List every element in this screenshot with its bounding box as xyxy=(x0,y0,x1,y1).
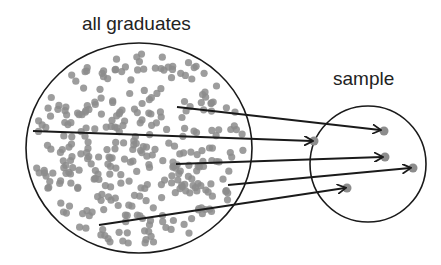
population-dot xyxy=(82,68,89,75)
population-dot xyxy=(49,170,56,177)
population-dot xyxy=(178,114,185,121)
population-dot xyxy=(104,75,111,82)
population-dot xyxy=(131,106,138,113)
population-dot xyxy=(61,107,68,114)
population-dot xyxy=(157,108,164,115)
population-dot xyxy=(102,182,109,189)
population-dot xyxy=(213,158,220,165)
population-dot xyxy=(48,94,55,101)
population-dot xyxy=(115,202,122,209)
population-dot xyxy=(91,99,98,106)
population-dot xyxy=(188,215,195,222)
population-dot xyxy=(168,179,175,186)
population-dot xyxy=(105,193,112,200)
population-dot xyxy=(106,238,113,245)
population-dot xyxy=(60,157,67,164)
population-dot xyxy=(69,164,76,171)
population-dot xyxy=(169,158,176,165)
population-dot xyxy=(74,184,81,191)
population-dot xyxy=(127,76,134,83)
population-dot xyxy=(103,146,110,153)
population-dot xyxy=(125,202,132,209)
population-dot xyxy=(130,141,137,148)
population-dot xyxy=(191,64,198,71)
population-dot xyxy=(151,146,158,153)
population-dot xyxy=(185,59,192,66)
population-dot xyxy=(54,106,61,113)
population-dot xyxy=(80,85,87,92)
population-dot xyxy=(206,144,213,151)
population-dot xyxy=(112,66,119,73)
population-dot xyxy=(121,117,128,124)
population-dot xyxy=(209,193,216,200)
population-dot xyxy=(56,180,63,187)
population-dot xyxy=(213,82,220,89)
population-dot xyxy=(126,90,133,97)
population-dot xyxy=(178,182,185,189)
population-dot xyxy=(108,123,115,130)
population-dot xyxy=(147,110,154,117)
population-dot xyxy=(185,230,192,237)
population-dot xyxy=(92,175,99,182)
population-dot xyxy=(62,170,69,177)
population-dot xyxy=(118,107,125,114)
population-dot xyxy=(98,95,105,102)
population-dot xyxy=(159,218,166,225)
sample-dot xyxy=(380,127,389,136)
population-dot xyxy=(85,139,92,146)
population-dot xyxy=(84,155,91,162)
population-dot xyxy=(199,91,206,98)
population-dot xyxy=(33,165,40,172)
population-dot xyxy=(35,117,42,124)
sampling-diagram xyxy=(0,0,441,265)
population-dot xyxy=(201,70,208,77)
population-dot xyxy=(63,210,70,217)
population-dot xyxy=(210,98,217,105)
population-dot xyxy=(181,221,188,228)
population-dot xyxy=(168,226,175,233)
population-dot xyxy=(215,126,222,133)
population-dot xyxy=(64,121,71,128)
population-dot xyxy=(91,125,98,132)
population-dot xyxy=(181,98,188,105)
population-dot xyxy=(168,74,175,81)
population-dot xyxy=(60,132,67,139)
population-dot xyxy=(143,197,150,204)
population-dot xyxy=(120,139,127,146)
population-dot xyxy=(92,167,99,174)
population-dot xyxy=(150,238,157,245)
population-dot xyxy=(163,126,170,133)
population-dot xyxy=(187,149,194,156)
population-dot xyxy=(82,225,89,232)
population-dot xyxy=(139,100,146,107)
population-dot xyxy=(188,75,195,82)
population-dot xyxy=(44,185,51,192)
population-dot xyxy=(143,144,150,151)
population-dot xyxy=(239,131,246,138)
population-dot xyxy=(112,195,119,202)
population-dot xyxy=(137,184,144,191)
population-dot xyxy=(99,70,106,77)
population-dot xyxy=(142,239,149,246)
arrow-icon xyxy=(176,157,382,164)
population-dot xyxy=(76,167,83,174)
population-dot xyxy=(141,227,148,234)
population-dot xyxy=(182,72,189,79)
population-dot xyxy=(168,172,175,179)
population-dot xyxy=(148,122,155,129)
population-dot xyxy=(199,210,206,217)
population-dot xyxy=(144,181,151,188)
population-dot xyxy=(224,196,231,203)
population-dot xyxy=(145,161,152,168)
population-dot xyxy=(68,133,75,140)
population-dot xyxy=(140,66,147,73)
population-dot xyxy=(76,224,83,231)
population-dot xyxy=(66,203,73,210)
population-dot xyxy=(111,145,118,152)
population-dot xyxy=(159,157,166,164)
population-dot xyxy=(158,181,165,188)
population-dot xyxy=(143,153,150,160)
population-dot xyxy=(136,193,143,200)
population-dot xyxy=(84,102,91,109)
population-dot xyxy=(121,156,128,163)
